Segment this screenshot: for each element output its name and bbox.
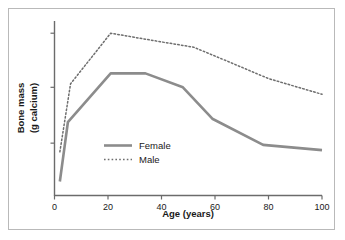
y-axis-title-line2: (g calcium) <box>28 83 39 133</box>
axis-group <box>55 21 323 196</box>
legend-label-male: Male <box>139 154 160 165</box>
x-axis-tick-label: 100 <box>314 202 329 212</box>
x-axis-tick-label: 80 <box>263 202 273 212</box>
chart-legend: Female Male <box>104 140 171 165</box>
series-group <box>60 33 322 181</box>
series-line-male <box>60 33 322 152</box>
x-axis-tick-label: 20 <box>103 202 113 212</box>
legend-label-female: Female <box>139 140 171 151</box>
bone-mass-line-chart: 020406080100 Age (years) Bone mass (g ca… <box>0 0 345 240</box>
x-axis-title: Age (years) <box>162 208 214 219</box>
series-line-female <box>60 73 322 181</box>
y-axis-title-line1: Bone mass <box>15 83 26 134</box>
x-axis-tick-label: 0 <box>52 202 57 212</box>
chart-canvas: 020406080100 Age (years) Bone mass (g ca… <box>0 0 345 240</box>
